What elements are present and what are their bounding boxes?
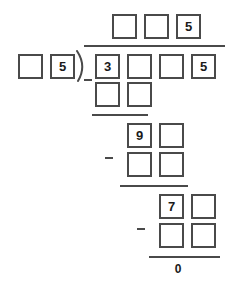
- step-1-subtrahend-box-1[interactable]: [95, 82, 120, 107]
- step-1-remainder-box-1[interactable]: 9: [127, 123, 152, 148]
- step-3-rule: [149, 256, 220, 258]
- step-1-minus-icon: [84, 79, 92, 81]
- step-2-subtrahend-box-2[interactable]: [159, 152, 184, 177]
- step-1-remainder-box-2[interactable]: [159, 123, 184, 148]
- division-vinculum: [84, 45, 225, 47]
- step-3-subtrahend-box-1[interactable]: [159, 223, 184, 248]
- step-2-subtrahend-box-1[interactable]: [127, 152, 152, 177]
- divisor-box-1[interactable]: [18, 54, 43, 79]
- divisor-box-2[interactable]: 5: [50, 54, 75, 79]
- step-2-rule: [120, 185, 188, 187]
- quotient-box-1[interactable]: [112, 14, 137, 39]
- dividend-box-2[interactable]: [127, 54, 152, 79]
- long-division-worksheet: 5 5 3 5 9 7 0: [0, 0, 237, 282]
- quotient-box-3[interactable]: 5: [176, 14, 201, 39]
- dividend-box-4[interactable]: 5: [191, 54, 216, 79]
- step-1-rule: [92, 114, 148, 116]
- step-2-remainder-box-1[interactable]: 7: [159, 194, 184, 219]
- step-2-minus-icon: [105, 157, 113, 159]
- step-2-remainder-box-2[interactable]: [191, 194, 216, 219]
- dividend-box-3[interactable]: [159, 54, 184, 79]
- quotient-box-2[interactable]: [144, 14, 169, 39]
- dividend-box-1[interactable]: 3: [95, 54, 120, 79]
- step-3-subtrahend-box-2[interactable]: [191, 223, 216, 248]
- step-3-minus-icon: [137, 228, 145, 230]
- step-1-subtrahend-box-2[interactable]: [127, 82, 152, 107]
- final-remainder: 0: [170, 262, 186, 276]
- division-bracket-icon: [74, 50, 90, 82]
